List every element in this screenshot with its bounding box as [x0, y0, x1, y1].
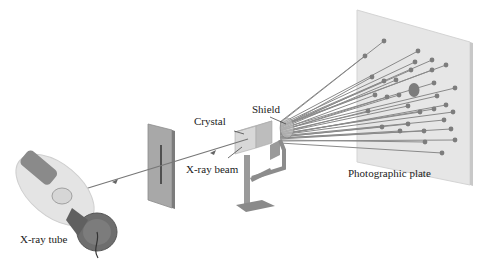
label-shield: Shield: [252, 104, 280, 115]
xray-diffraction-diagram: X-ray tube X-ray beam Crystal Shield Pho…: [0, 0, 488, 267]
diagram-artwork: [0, 0, 488, 267]
label-photographic-plate: Photographic plate: [348, 168, 431, 179]
label-xray-beam: X-ray beam: [186, 164, 238, 175]
central-spot: [409, 83, 420, 97]
slit-screen: [148, 124, 175, 209]
shield: [280, 118, 294, 138]
label-xray-tube: X-ray tube: [20, 234, 67, 245]
crystal: [235, 121, 272, 154]
label-crystal: Crystal: [194, 116, 226, 127]
